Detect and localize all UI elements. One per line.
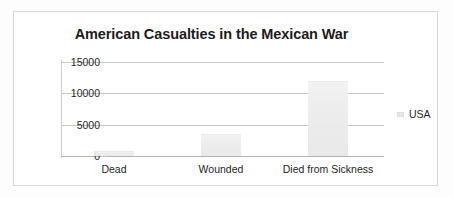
x-axis-label-died-from-sickness: Died from Sickness — [283, 163, 373, 175]
gridline-0-baseline — [61, 156, 384, 157]
bar-wounded — [201, 134, 241, 156]
legend-swatch-icon — [397, 112, 404, 117]
chart-title: American Casualties in the Mexican War — [14, 26, 409, 42]
chart-legend: USA — [397, 108, 431, 120]
plot-area: 15000 10000 5000 0 — [61, 62, 384, 156]
x-axis-label-dead: Dead — [101, 163, 126, 175]
legend-label-usa: USA — [409, 108, 431, 120]
x-axis-labels: Dead Wounded Died from Sickness — [61, 163, 384, 183]
bar-died-from-sickness — [308, 81, 348, 156]
y-tick-0 — [101, 156, 102, 157]
chart-container: American Casualties in the Mexican War 1… — [13, 11, 438, 186]
bar-dead — [94, 151, 134, 156]
bars-layer — [61, 62, 384, 156]
x-axis-label-wounded: Wounded — [199, 163, 244, 175]
chart-screenshot: American Casualties in the Mexican War 1… — [0, 0, 453, 197]
